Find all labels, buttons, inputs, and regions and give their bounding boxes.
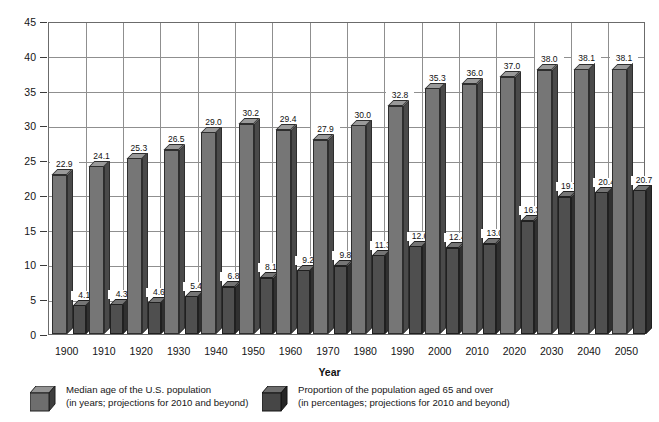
bar-median-age-1930 xyxy=(164,144,179,334)
legend-text-median-age: Median age of the U.S. population (in ye… xyxy=(66,384,248,409)
bar-value-label-median-age: 38.0 xyxy=(535,55,564,64)
y-axis-tick-mark xyxy=(40,57,47,58)
bar-side-face xyxy=(515,71,521,334)
bar-elderly-2010 xyxy=(483,238,496,334)
bar-value-label-median-age: 32.8 xyxy=(386,91,415,100)
bar-front-face xyxy=(537,70,552,334)
legend-line-1: Median age of the U.S. population xyxy=(66,384,248,397)
bar-value-label-median-age: 29.4 xyxy=(274,115,303,124)
bar-median-age-2050 xyxy=(612,64,627,335)
bar-elderly-2000 xyxy=(446,242,459,334)
bar-front-face xyxy=(446,248,459,334)
bar-median-age-2000 xyxy=(425,83,440,334)
light-gray-cube-icon xyxy=(30,386,56,412)
bar-front-face xyxy=(110,304,123,334)
y-axis-tick-mark xyxy=(40,22,47,23)
bar-front-face xyxy=(239,124,254,334)
y-axis-tick-label: 5 xyxy=(14,295,36,305)
bar-value-label-median-age: 38.1 xyxy=(610,54,639,63)
bar-elderly-1910 xyxy=(110,299,123,334)
y-axis-tick-label: 10 xyxy=(14,260,36,270)
bar-side-face xyxy=(291,124,297,334)
bar-side-face xyxy=(179,144,185,334)
y-axis-tick-label: 0 xyxy=(14,330,36,340)
bar-elderly-2020 xyxy=(521,215,534,334)
bar-front-face xyxy=(222,287,235,334)
y-axis-tick-label: 25 xyxy=(14,156,36,166)
bar-front-face xyxy=(89,166,104,334)
legend-text-65-and-over: Proportion of the population aged 65 and… xyxy=(298,384,510,409)
bar-front-face xyxy=(52,175,67,334)
bar-front-face xyxy=(313,140,328,334)
bar-front-face xyxy=(521,221,534,334)
bar-side-face xyxy=(67,169,73,334)
bar-front-face xyxy=(595,192,608,334)
bar-value-label-elderly: 20.7 xyxy=(631,176,658,185)
bar-elderly-1990 xyxy=(409,241,422,334)
x-axis-title: Year xyxy=(0,366,659,378)
bar-value-label-median-age: 27.9 xyxy=(311,125,340,134)
y-axis-tick-mark xyxy=(40,335,47,336)
bar-side-face xyxy=(216,127,222,334)
bar-front-face xyxy=(260,278,273,334)
y-axis-tick-mark xyxy=(40,161,47,162)
legend-line-2: (in years; projections for 2010 and beyo… xyxy=(66,397,248,410)
bar-median-age-1920 xyxy=(127,153,142,334)
bar-front-face xyxy=(500,77,515,334)
bar-median-age-1970 xyxy=(313,134,328,334)
bar-elderly-2050 xyxy=(633,185,646,334)
bar-side-face xyxy=(477,78,483,334)
bar-elderly-1960 xyxy=(297,265,310,334)
bar-value-label-median-age: 38.1 xyxy=(572,54,601,63)
bar-front-face xyxy=(334,266,347,334)
bar-median-age-2020 xyxy=(500,71,515,334)
bar-median-age-2030 xyxy=(537,64,552,334)
y-axis-tick-mark xyxy=(40,126,47,127)
gridline-vertical xyxy=(86,23,87,334)
bar-value-label-median-age: 37.0 xyxy=(498,62,527,71)
bar-value-label-median-age: 29.0 xyxy=(199,118,228,127)
bar-value-label-median-age: 26.5 xyxy=(162,135,191,144)
grouped-bar-chart: 051015202530354045 22.94.124.14.325.34.6… xyxy=(0,0,659,422)
bar-median-age-1950 xyxy=(239,118,254,334)
bar-value-label-median-age: 22.9 xyxy=(50,160,79,169)
bar-side-face xyxy=(440,83,446,334)
bar-elderly-1930 xyxy=(185,291,198,334)
bar-front-face xyxy=(276,130,291,334)
bar-value-label-median-age: 35.3 xyxy=(423,74,452,83)
bar-elderly-1940 xyxy=(222,281,235,334)
bar-front-face xyxy=(185,296,198,334)
bar-median-age-1960 xyxy=(276,124,291,334)
bar-value-label-median-age: 24.1 xyxy=(87,152,116,161)
bar-value-label-median-age: 36.0 xyxy=(460,69,489,78)
bar-front-face xyxy=(351,125,366,334)
bar-median-age-1980 xyxy=(351,120,366,334)
bar-front-face xyxy=(425,88,440,334)
bar-side-face xyxy=(646,185,652,334)
y-axis-tick-mark xyxy=(40,92,47,93)
bar-side-face xyxy=(589,64,595,335)
bar-side-face xyxy=(552,64,558,334)
dark-gray-cube-icon xyxy=(262,386,288,412)
bar-front-face xyxy=(164,150,179,334)
bar-front-face xyxy=(462,84,477,334)
bar-front-face xyxy=(297,270,310,334)
bar-front-face xyxy=(612,69,627,334)
bar-median-age-2040 xyxy=(574,64,589,335)
bar-elderly-1970 xyxy=(334,260,347,334)
bar-side-face xyxy=(254,118,260,334)
y-axis-tick-label: 30 xyxy=(14,121,36,131)
x-axis-tick-label: 2050 xyxy=(603,346,649,357)
bar-value-label-median-age: 25.3 xyxy=(125,144,154,153)
bar-front-face xyxy=(483,244,496,334)
bar-front-face xyxy=(73,305,86,334)
bar-front-face xyxy=(409,246,422,334)
bar-front-face xyxy=(558,197,571,334)
chart-legend: Median age of the U.S. population (in ye… xyxy=(0,384,659,422)
bar-elderly-2040 xyxy=(595,187,608,334)
bar-elderly-1980 xyxy=(372,250,385,334)
y-axis-tick-mark xyxy=(40,300,47,301)
bar-side-face xyxy=(366,120,372,334)
plot-area: 22.94.124.14.325.34.626.55.429.06.830.28… xyxy=(48,22,645,335)
bar-side-face xyxy=(403,100,409,334)
